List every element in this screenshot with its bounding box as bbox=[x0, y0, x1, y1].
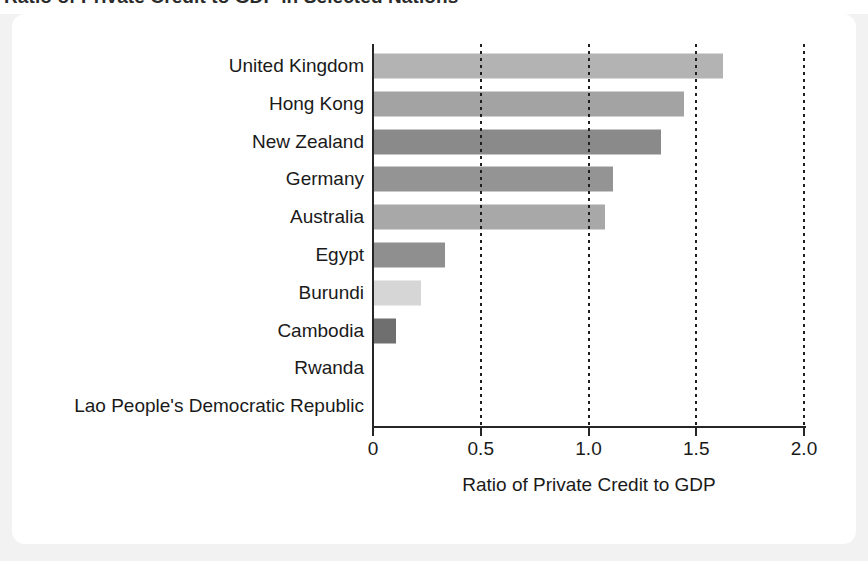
bar bbox=[374, 167, 613, 192]
x-axis-label: Ratio of Private Credit to GDP bbox=[372, 474, 806, 496]
x-tick bbox=[695, 428, 697, 436]
bar bbox=[374, 205, 605, 230]
category-label: Australia bbox=[290, 206, 364, 228]
title-strip: Ratio of Private Credit to GDP in Select… bbox=[0, 0, 868, 14]
x-tick-label: 2.0 bbox=[791, 438, 817, 460]
bar-row: Australia bbox=[12, 199, 856, 235]
category-label: Lao People's Democratic Republic bbox=[74, 395, 364, 417]
category-label: New Zealand bbox=[252, 131, 364, 153]
bar bbox=[374, 54, 723, 79]
gridline bbox=[588, 44, 590, 426]
bar bbox=[374, 91, 684, 116]
category-label: Egypt bbox=[315, 244, 364, 266]
bar bbox=[374, 318, 396, 343]
x-tick-label: 0.5 bbox=[468, 438, 494, 460]
x-tick bbox=[372, 428, 374, 436]
page-title: Ratio of Private Credit to GDP in Select… bbox=[4, 0, 458, 8]
bar-row: Hong Kong bbox=[12, 86, 856, 122]
bar-row: New Zealand bbox=[12, 124, 856, 160]
x-tick-label: 0 bbox=[368, 438, 379, 460]
bar bbox=[374, 129, 661, 154]
category-label: Cambodia bbox=[277, 320, 364, 342]
bar-row: Cambodia bbox=[12, 313, 856, 349]
x-tick bbox=[588, 428, 590, 436]
y-axis-line bbox=[372, 44, 374, 426]
category-label: Germany bbox=[286, 168, 364, 190]
bar-row: United Kingdom bbox=[12, 48, 856, 84]
x-tick-label: 1.5 bbox=[683, 438, 709, 460]
bar-row: Burundi bbox=[12, 275, 856, 311]
bar-row: Lao People's Democratic Republic bbox=[12, 388, 856, 424]
bar bbox=[374, 243, 445, 268]
gridline bbox=[695, 44, 697, 426]
x-tick-label: 1.0 bbox=[575, 438, 601, 460]
chart-page: Ratio of Private Credit to GDP in Select… bbox=[0, 0, 868, 561]
chart-card: United KingdomHong KongNew ZealandGerman… bbox=[12, 14, 856, 544]
category-label: Hong Kong bbox=[269, 93, 364, 115]
bar bbox=[374, 280, 421, 305]
bar-row: Rwanda bbox=[12, 350, 856, 386]
category-label: Rwanda bbox=[294, 357, 364, 379]
bar-row: Egypt bbox=[12, 237, 856, 273]
gridline bbox=[480, 44, 482, 426]
category-label: Burundi bbox=[299, 282, 365, 304]
x-tick bbox=[480, 428, 482, 436]
gridline bbox=[803, 44, 805, 426]
bar-row: Germany bbox=[12, 161, 856, 197]
x-tick bbox=[803, 428, 805, 436]
bar-chart-plot: United KingdomHong KongNew ZealandGerman… bbox=[12, 14, 856, 544]
category-label: United Kingdom bbox=[229, 55, 364, 77]
